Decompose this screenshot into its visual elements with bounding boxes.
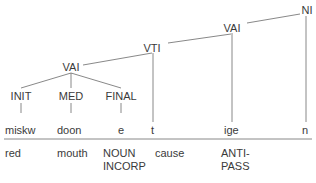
morpheme-doon: doon: [57, 124, 81, 136]
tree-node-med: MED: [59, 90, 83, 102]
gloss-noun-incorp-1: NOUN: [103, 147, 135, 159]
morpheme-miskw: miskw: [5, 124, 36, 136]
gloss-mouth: mouth: [57, 147, 88, 159]
gloss-red: red: [5, 147, 21, 159]
gloss-antipass-2: PASS: [221, 160, 250, 172]
morpheme-e: e: [118, 124, 124, 136]
gloss-noun-incorp-2: INCORP: [103, 160, 146, 172]
morpheme-ige: ige: [224, 124, 239, 136]
tree-node-final: FINAL: [105, 90, 136, 102]
tree-node-vai-upper: VAI: [224, 22, 241, 34]
morpheme-n: n: [302, 124, 308, 136]
gloss-cause: cause: [155, 147, 184, 159]
tree-node-vai-lower: VAI: [63, 61, 80, 73]
tree-node-vti: VTI: [143, 42, 160, 54]
tree-node-init: INIT: [11, 90, 32, 102]
tree-node-ni: NI: [302, 4, 313, 16]
morpheme-t: t: [151, 124, 154, 136]
gloss-antipass-1: ANTI-: [221, 147, 250, 159]
